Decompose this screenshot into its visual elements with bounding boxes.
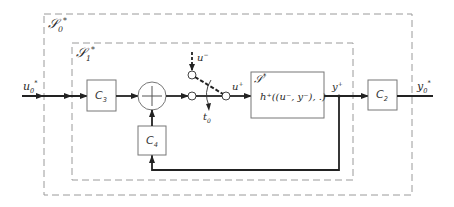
group-s1-label: 𝒮1* (76, 46, 95, 63)
plant-title: 𝒮* (254, 73, 266, 85)
block-c2-label: C2 (376, 89, 388, 103)
switch-time-arrow-icon (206, 103, 211, 111)
block-diagram (0, 0, 454, 207)
block-c4-label: C4 (146, 135, 158, 149)
plant-function: h⁺((u⁻, y⁻), .) (260, 92, 326, 102)
switch-alt-input-label: u− (197, 52, 208, 63)
block-c3-label: C3 (95, 90, 107, 104)
switch-time-label: t0 (203, 112, 211, 124)
input-signal-label: u0* (23, 80, 38, 94)
inner-boundary-arrow-icon (64, 93, 72, 99)
switch-contact-left (188, 92, 196, 100)
switch-lever (195, 77, 223, 94)
feedback-arrow-icon (149, 155, 155, 163)
switch-output-label: u+ (232, 81, 243, 92)
group-s0-label: 𝒮0* (48, 17, 67, 34)
output-signal-label: y0* (417, 80, 431, 94)
u-minus-arrow-icon (189, 64, 195, 71)
plant-output-label: y+ (332, 81, 343, 92)
